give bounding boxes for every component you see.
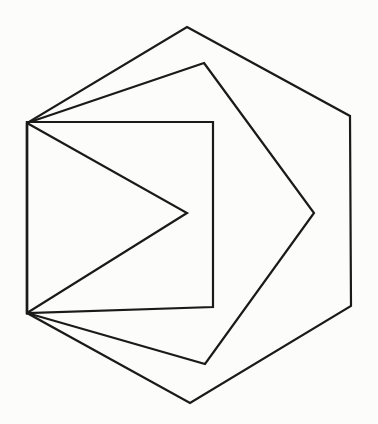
pentagon-outline [27, 63, 314, 364]
polygons-canvas [0, 0, 378, 424]
nested-polygons-figure [0, 0, 378, 424]
square-outline [27, 122, 213, 313]
triangle-outline [27, 123, 187, 313]
hexagon-outline [27, 27, 351, 403]
